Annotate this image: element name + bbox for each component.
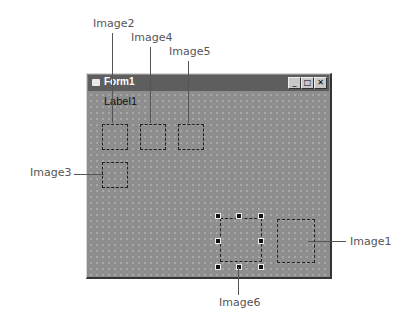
resize-handle-w[interactable] [215, 238, 221, 244]
leader-line-image4 [150, 47, 151, 123]
form1-window[interactable]: Form1 _ □ ✕ Label1 [86, 73, 332, 279]
leader-line-image6 [238, 267, 239, 295]
leader-line-image2 [112, 33, 113, 123]
form-icon [92, 79, 100, 86]
callout-image1: Image1 [350, 235, 391, 248]
resize-handle-e[interactable] [258, 238, 264, 244]
image4-control[interactable] [140, 124, 166, 150]
image6-control[interactable] [220, 218, 262, 262]
form-design-grid[interactable]: Label1 [88, 92, 329, 276]
callout-image3: Image3 [30, 166, 71, 179]
resize-handle-nw[interactable] [215, 213, 221, 219]
title-bar[interactable]: Form1 _ □ ✕ [88, 75, 329, 91]
callout-image5: Image5 [169, 45, 210, 58]
resize-handle-n[interactable] [236, 213, 242, 219]
leader-line-image5 [188, 61, 189, 123]
resize-handle-sw[interactable] [215, 264, 221, 270]
leader-line-image1 [308, 241, 346, 242]
close-button[interactable]: ✕ [314, 77, 327, 89]
image3-control[interactable] [102, 162, 128, 188]
image2-control[interactable] [102, 124, 128, 150]
resize-handle-ne[interactable] [258, 213, 264, 219]
minimize-button[interactable]: _ [288, 77, 301, 89]
image5-control[interactable] [178, 124, 204, 150]
resize-handle-s[interactable] [236, 264, 242, 270]
maximize-button[interactable]: □ [301, 77, 314, 89]
leader-line-image3 [74, 174, 104, 175]
resize-handle-se[interactable] [258, 264, 264, 270]
window-title: Form1 [104, 76, 135, 87]
callout-image4: Image4 [131, 31, 172, 44]
callout-image2: Image2 [93, 17, 134, 30]
callout-image6: Image6 [219, 296, 260, 309]
label1-control[interactable]: Label1 [104, 95, 137, 107]
